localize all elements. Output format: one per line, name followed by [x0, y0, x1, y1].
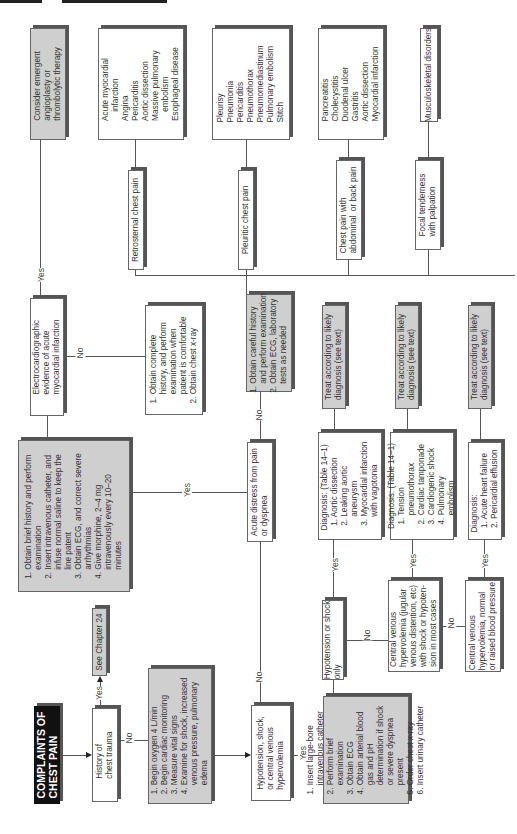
node-distress-steps: 1. Obtain brief history and perform exam… [18, 440, 130, 592]
node-cv-hypervolemia-normal: Central venous hypervolemia, normal or r… [465, 580, 501, 672]
node-diagnosis-1: Diagnosis: (Table 14–1) 1. Aortic dissec… [318, 432, 382, 540]
no-label: No [124, 733, 134, 744]
no-label: No [446, 618, 456, 629]
node-initial-steps: 1. Begin oxygen 4 L/min 2. Begin cardiac… [148, 668, 212, 804]
connector [348, 140, 349, 160]
no-label: No [254, 410, 264, 421]
arrow-right-icon [245, 752, 251, 758]
connector [246, 270, 247, 294]
yes-label: Yes [480, 554, 490, 568]
connector [333, 680, 334, 696]
connector [135, 270, 136, 276]
title-text: COMPLAINTS OF CHEST PAIN [35, 712, 59, 799]
page-edge-bar [62, 0, 167, 3]
yes-label: Yes [298, 746, 308, 760]
arrow-right-icon [86, 752, 92, 758]
node-pleuritic: Pleuritic chest pain [238, 170, 254, 270]
node-see-chapter: See Chapter 24 [92, 608, 107, 676]
connector [348, 260, 349, 276]
node-diagnosis-3: Diagnosis: 1. Acute heart failure 2. Per… [468, 442, 502, 540]
title-box: COMPLAINTS OF CHEST PAIN [34, 706, 60, 804]
yes-label: Yes [182, 483, 192, 497]
node-emergent-therapy: Consider emergent angioplasty or thrombo… [30, 28, 66, 140]
connector [135, 140, 136, 170]
node-pleuritic-dx: Pleurisy Pneumonia Pericarditis Pneumoth… [212, 28, 290, 140]
yes-label: Yes [36, 268, 46, 282]
page-edge-bar [0, 0, 42, 3]
node-ecg-question: Electrocardiographic evidence of acute m… [30, 298, 64, 416]
node-hypotension-question: Hypotension, shock, or central venous hy… [251, 705, 291, 801]
yes-label: Yes [408, 554, 418, 568]
node-abdominal-dx: Pancreatitis Cholecystitis Duodenal ulce… [318, 28, 384, 140]
connector [334, 409, 335, 432]
node-retrosternal-dx: Acute myocardial infarction Angina Peric… [98, 28, 184, 140]
node-treat-2: Treat according to likely diagnosis (see… [395, 305, 419, 409]
node-hypotension-only: Hypotension or shock only [322, 600, 344, 680]
node-treat-3: Treat according to likely diagnosis (see… [468, 305, 492, 409]
node-acute-distress-question: Acute distress from pain or dyspnea [247, 442, 273, 542]
no-label: No [75, 348, 85, 359]
connector [480, 409, 481, 442]
connector [428, 122, 429, 160]
yes-label: Yes [94, 686, 104, 700]
node-cv-hypervolemia-shock: Central venous hypervolemia (jugular ven… [388, 580, 440, 672]
node-complete-history: 1. Obtain complete history, and perform … [145, 305, 203, 415]
yes-label: Yes [330, 558, 340, 572]
arrow-up-icon [97, 676, 103, 682]
node-focal-dx: Musculoskeletal disorders [420, 28, 438, 122]
connector [428, 250, 429, 276]
no-label: No [362, 630, 372, 641]
node-focal-tenderness: Focal tenderness with palpation [415, 160, 441, 250]
node-treat-1: Treat according to likely diagnosis (see… [322, 305, 346, 409]
node-history-trauma: History of chest trauma [92, 708, 118, 802]
node-retrosternal: Retrosternal chest pain [128, 170, 144, 270]
connector [135, 275, 515, 276]
node-abdominal-back: Chest pain with abdominal or back pain [336, 160, 362, 260]
node-careful-history: 1. Obtain careful history and perform ex… [246, 294, 292, 392]
connector [407, 409, 408, 432]
node-diagnosis-2: Diagnosis: (Table 14–1) 1. Tension pneum… [390, 432, 454, 540]
connector [47, 416, 48, 440]
no-label: No [254, 672, 264, 683]
node-shock-steps: 1. Insert large-bore intravenous cathete… [323, 696, 409, 804]
connector [246, 140, 247, 170]
